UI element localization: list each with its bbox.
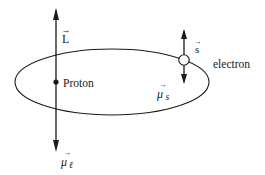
arrowhead-up-icon <box>53 8 59 20</box>
arrowhead-down-icon <box>53 140 59 152</box>
label-s: s <box>195 43 199 55</box>
label-proton: Proton <box>63 77 94 89</box>
arrowhead-down-icon <box>181 74 187 84</box>
label-mu-s-subscript: s <box>166 92 170 102</box>
arrowhead-up-icon <box>181 29 187 39</box>
label-electron: electron <box>213 58 250 70</box>
label-L: L <box>62 32 69 46</box>
label-mu-s: μ <box>156 87 163 101</box>
label-mu: μ <box>60 155 67 169</box>
proton-dot <box>53 79 58 84</box>
spin-orbit-diagram: → L Proton → μ ℓ → s electron → μ s <box>0 0 265 175</box>
label-mu-l-subscript: ℓ <box>69 160 73 170</box>
electron-circle <box>179 55 189 65</box>
